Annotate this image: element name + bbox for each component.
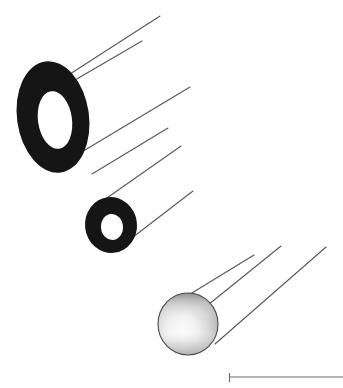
figure-canvas: Tilted annuli and sphere with projection… (0, 0, 343, 388)
shaded-sphere (158, 293, 218, 355)
figure-svg (0, 0, 343, 388)
